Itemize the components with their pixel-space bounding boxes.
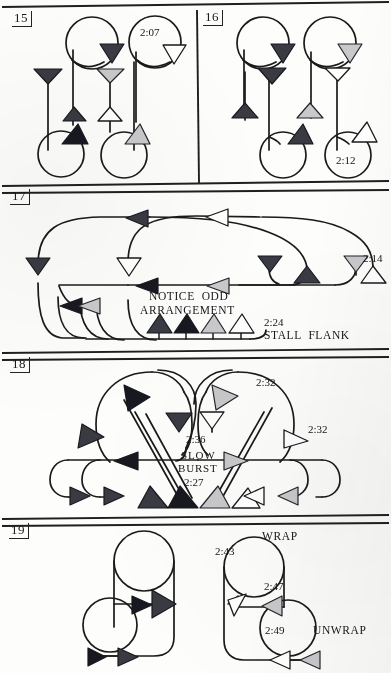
- arrowhead-light-up-diag3: [200, 486, 230, 508]
- arrowhead-black-right-upper: [132, 596, 152, 614]
- label-slow: SLOW: [181, 450, 215, 462]
- label-time-2-27: 2:27: [184, 477, 204, 489]
- arrowhead-black-up: [62, 124, 88, 144]
- label-unwrap: UNWRAP: [313, 624, 366, 636]
- arrowhead-white-down-v: [117, 258, 141, 276]
- arrowhead-black-up-b2: [174, 314, 199, 333]
- arrowhead-light-up-b3: [201, 314, 226, 333]
- label-notice-odd: NOTICE ODD: [149, 290, 228, 302]
- arrowhead-dark-right-big: [152, 590, 176, 618]
- arrowhead-dark-down-right: [258, 256, 282, 272]
- arrowhead-dark-up-small: [63, 107, 86, 121]
- label-time-2-32-b: 2:32: [308, 424, 328, 436]
- panel-17-figure: [26, 209, 386, 340]
- arrowhead-dark-left: [126, 210, 148, 227]
- panel-number-19: 19: [9, 523, 29, 539]
- arrowhead-white-down: [163, 45, 186, 64]
- arrowhead-light-down: [338, 44, 362, 63]
- arrowhead-white-left-bottom: [270, 651, 290, 669]
- label-time-2-36: 2:36: [186, 434, 206, 446]
- label-time-2-49: 2:49: [265, 625, 285, 637]
- label-time-2-12: 2:12: [336, 155, 356, 167]
- label-wrap: WRAP: [262, 530, 298, 542]
- arrowhead-dark-up-small: [232, 103, 258, 118]
- arrowhead-dark-down-mid: [166, 413, 192, 432]
- arrowhead-dark-up-b1: [147, 314, 172, 333]
- arrowhead-white-left: [206, 209, 228, 226]
- panel-number-17: 17: [10, 189, 30, 205]
- arrowhead-black-up-diag2: [168, 486, 198, 508]
- arrowhead-dark-right-b1: [70, 487, 90, 505]
- arrowhead-light-upright: [212, 385, 238, 410]
- label-time-2-47: 2:47: [264, 581, 284, 593]
- arrowhead-white-up: [352, 122, 377, 142]
- arrowhead-white-v: [325, 68, 350, 81]
- arrowhead-light-up-small: [297, 103, 323, 118]
- arrowhead-dark-v: [34, 69, 62, 84]
- panel-dividers: [2, 2, 389, 526]
- label-burst: BURST: [178, 463, 217, 475]
- arrowhead-light-left-bottom: [300, 651, 320, 669]
- arrowhead-black-left-mid: [114, 452, 138, 470]
- arrowhead-dark-v: [258, 68, 286, 84]
- label-time-2-43: 2:43: [215, 546, 235, 558]
- arrowhead-light-left-b2: [278, 487, 298, 505]
- arrowhead-dark-right-lower2: [118, 648, 138, 666]
- arrowhead-light-up: [125, 124, 150, 144]
- arrowhead-dark-up-diag1: [138, 486, 168, 508]
- panel-number-18: 18: [10, 357, 30, 373]
- label-time-2-07: 2:07: [140, 27, 160, 39]
- notation-sheet: .st{fill:none;stroke:#1a1a1a;stroke-widt…: [0, 0, 391, 673]
- arrowhead-dark-down-v: [26, 258, 50, 275]
- arrowhead-white-upright-small: [284, 430, 308, 448]
- label-time-2-32-a: 2:32: [256, 377, 276, 389]
- label-stall-flank: STALL FLANK: [264, 329, 350, 341]
- arrowhead-dark-down: [271, 44, 295, 63]
- arrowhead-white-up-small: [98, 107, 122, 121]
- label-time-2-14: 2:14: [363, 253, 383, 265]
- arrowhead-dark-up-right: [294, 266, 320, 283]
- panel-19-figure: [83, 531, 320, 669]
- arrowhead-dark-upleft-small: [78, 424, 104, 448]
- label-arrangement: ARRANGEMENT: [140, 304, 235, 316]
- panel-number-15: 15: [12, 11, 32, 27]
- arrowhead-white-down-mid: [200, 412, 224, 429]
- arrowhead-light-v: [97, 69, 124, 83]
- label-time-2-24: 2:24: [264, 317, 284, 329]
- arrowhead-dark-down: [100, 44, 124, 63]
- arrowhead-white-hook: [228, 594, 246, 616]
- arrowhead-white-up-right: [361, 266, 386, 283]
- arrowhead-light-right-mid: [224, 452, 248, 470]
- panel-15-figure: [34, 16, 186, 178]
- arrowhead-white-up-b4: [229, 314, 254, 333]
- arrowhead-black-upleft-big: [124, 385, 150, 411]
- arrowhead-dark-right-b2: [104, 487, 124, 505]
- panel-number-16: 16: [203, 10, 223, 26]
